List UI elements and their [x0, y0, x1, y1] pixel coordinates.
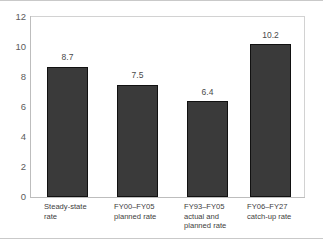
- y-tick-label: 12: [2, 12, 26, 22]
- x-category-label: FY06–FY27 catch-up rate: [247, 202, 317, 221]
- x-category-label-line: catch-up rate: [247, 212, 317, 222]
- y-tick-label: 8: [2, 72, 26, 82]
- bar-value-label: 7.5: [117, 70, 158, 80]
- bar: [117, 85, 158, 198]
- y-tick-label: 6: [2, 102, 26, 112]
- y-tick-label: 2: [2, 162, 26, 172]
- y-axis-line: [30, 16, 31, 198]
- x-category-label-line: FY93–FY05: [184, 202, 252, 212]
- bar-value-label: 10.2: [250, 30, 291, 40]
- x-category-label: FY93–FY05 actual and planned rate: [184, 202, 252, 231]
- bar-value-label: 8.7: [47, 52, 88, 62]
- x-category-label-line: actual and: [184, 212, 252, 222]
- y-tick-label: 4: [2, 132, 26, 142]
- x-category-label-line: planned rate: [114, 212, 182, 222]
- page-rule-bottom: [0, 238, 323, 239]
- bar-value-label: 6.4: [187, 87, 228, 97]
- y-tick-label: 10: [2, 42, 26, 52]
- x-category-label-line: Steady-state: [44, 202, 108, 212]
- bar: [47, 67, 88, 198]
- bar-chart: 12 10 8 6 4 2 0 8.7 7.5 6.4 10.2 Steady-…: [0, 1, 323, 238]
- y-tick-label: 0: [2, 192, 26, 202]
- chart-screenshot: 12 10 8 6 4 2 0 8.7 7.5 6.4 10.2 Steady-…: [0, 0, 323, 246]
- x-axis-line: [30, 197, 305, 198]
- x-category-label-line: rate: [44, 212, 108, 222]
- x-category-label-line: planned rate: [184, 221, 252, 231]
- x-category-label: Steady-state rate: [44, 202, 108, 221]
- x-category-label: FY00–FY05 planned rate: [114, 202, 182, 221]
- x-category-label-line: FY00–FY05: [114, 202, 182, 212]
- bar: [250, 44, 291, 197]
- x-category-label-line: FY06–FY27: [247, 202, 317, 212]
- bar: [187, 101, 228, 197]
